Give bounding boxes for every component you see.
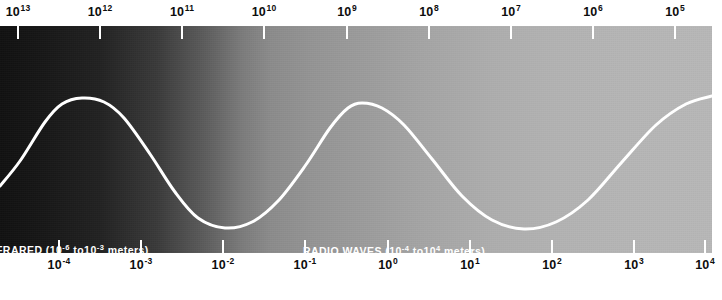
- axis-tick-label: 1012: [88, 5, 113, 19]
- axis-tick-mark: [17, 26, 19, 39]
- region-label-infrared: FRARED (10-6 to10-3 meters): [0, 244, 149, 253]
- tick-exponent: 9: [352, 3, 357, 13]
- tick-exponent: 11: [185, 3, 194, 13]
- tick-base: 10: [695, 258, 709, 272]
- axis-tick-mark: [592, 26, 594, 39]
- tick-exponent: 13: [20, 3, 30, 13]
- axis-tick-label: 106: [583, 5, 603, 19]
- axis-tick-mark: [704, 240, 706, 253]
- tick-exponent: 5: [680, 3, 685, 13]
- axis-tick-label: 10-2: [212, 258, 235, 272]
- axis-tick-label: 105: [665, 5, 685, 19]
- tick-exponent: 12: [102, 3, 112, 13]
- axis-tick-mark: [99, 26, 101, 39]
- waveform-curve: [0, 26, 712, 253]
- region-label-radio-waves: RADIO WAVES (10-4 to104 meters): [303, 245, 485, 253]
- tick-exponent: -4: [62, 256, 70, 266]
- axis-tick-mark: [674, 26, 676, 39]
- tick-exponent: 4: [710, 256, 715, 266]
- axis-tick-mark: [510, 26, 512, 39]
- tick-exponent: -1: [308, 256, 316, 266]
- tick-exponent: 0: [393, 256, 398, 266]
- axis-tick-mark: [263, 26, 265, 39]
- tick-base: 10: [337, 5, 351, 19]
- tick-base: 10: [665, 5, 679, 19]
- axis-tick-mark: [428, 26, 430, 39]
- region-range-mid: to10: [70, 244, 97, 253]
- region-range-suffix: meters): [441, 245, 485, 253]
- tick-exponent: -3: [144, 256, 152, 266]
- tick-exponent: 6: [598, 3, 603, 13]
- axis-tick-label: 108: [419, 5, 439, 19]
- axis-tick-label: 103: [624, 258, 644, 272]
- tick-base: 10: [501, 5, 515, 19]
- tick-base: 10: [130, 258, 144, 272]
- tick-exponent: 1: [475, 256, 480, 266]
- tick-base: 10: [583, 5, 597, 19]
- tick-base: 10: [6, 5, 20, 19]
- region-range-suffix: meters): [104, 244, 148, 253]
- axis-tick-label: 10-3: [130, 258, 153, 272]
- tick-base: 10: [48, 258, 62, 272]
- axis-tick-label: 10-1: [294, 258, 317, 272]
- tick-exponent: 7: [516, 3, 521, 13]
- region-range-mid: to10: [409, 245, 436, 253]
- axis-tick-label: 10-4: [48, 258, 71, 272]
- axis-tick-label: 109: [337, 5, 357, 19]
- spectrum-figure: FRARED (10-6 to10-3 meters) RADIO WAVES …: [0, 0, 722, 300]
- region-name: RADIO WAVES: [303, 245, 385, 253]
- sine-wave-path: [0, 96, 712, 229]
- tick-base: 10: [460, 258, 474, 272]
- axis-tick-mark: [551, 240, 553, 253]
- axis-tick-label: 1010: [252, 5, 277, 19]
- region-name: FRARED: [0, 244, 46, 253]
- tick-base: 10: [294, 258, 308, 272]
- axis-tick-label: 1011: [170, 5, 194, 19]
- tick-exponent: 10: [266, 3, 276, 13]
- axis-tick-label: 102: [542, 258, 562, 272]
- spectrum-band: FRARED (10-6 to10-3 meters) RADIO WAVES …: [0, 26, 712, 253]
- tick-base: 10: [212, 258, 226, 272]
- tick-base: 10: [88, 5, 102, 19]
- axis-tick-label: 100: [378, 258, 398, 272]
- tick-exponent: 8: [434, 3, 439, 13]
- axis-tick-mark: [633, 240, 635, 253]
- tick-exponent: -2: [226, 256, 234, 266]
- tick-exponent: 2: [557, 256, 562, 266]
- axis-tick-mark: [181, 26, 183, 39]
- tick-base: 10: [624, 258, 638, 272]
- axis-tick-mark: [222, 240, 224, 253]
- axis-tick-mark: [346, 26, 348, 39]
- tick-base: 10: [252, 5, 266, 19]
- region-range-exponent-low: -6: [62, 243, 70, 252]
- tick-base: 10: [378, 258, 392, 272]
- axis-tick-label: 1013: [6, 5, 31, 19]
- axis-tick-label: 104: [695, 258, 715, 272]
- region-range-prefix: (10: [385, 245, 402, 253]
- axis-tick-label: 107: [501, 5, 521, 19]
- axis-tick-label: 101: [460, 258, 480, 272]
- tick-exponent: 3: [639, 256, 644, 266]
- region-range-prefix: (10: [46, 244, 63, 253]
- tick-base: 10: [542, 258, 556, 272]
- tick-base: 10: [170, 5, 184, 19]
- tick-base: 10: [419, 5, 433, 19]
